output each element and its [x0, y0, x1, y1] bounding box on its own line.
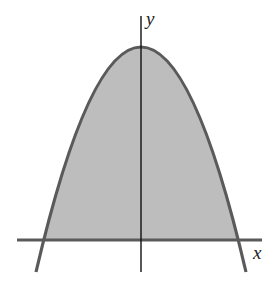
y-axis-label: y	[146, 9, 154, 28]
x-axis-label: x	[253, 243, 261, 262]
diagram-canvas	[0, 0, 278, 286]
parabola-diagram: y x	[0, 0, 278, 286]
